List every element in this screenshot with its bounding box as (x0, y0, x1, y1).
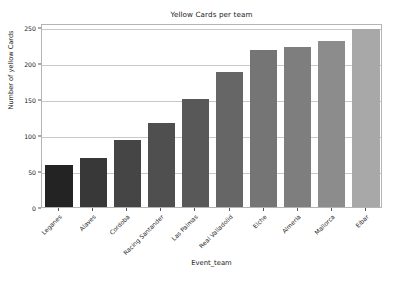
y-tick-mark (38, 171, 41, 172)
x-tick-mark (92, 208, 93, 211)
bar (148, 123, 175, 207)
bar (182, 99, 209, 207)
y-axis-label: Number of yellow Cards (7, 0, 15, 145)
y-tick-label: 200 (24, 60, 36, 67)
x-tick-mark (194, 208, 195, 211)
bar (80, 158, 107, 207)
y-tick-mark (38, 63, 41, 64)
y-tick-label: 0 (32, 205, 36, 212)
y-tick-label: 50 (28, 168, 36, 175)
bar (284, 47, 311, 207)
x-tick-mark (58, 208, 59, 211)
y-tick-label: 100 (24, 132, 36, 139)
x-tick-mark (160, 208, 161, 211)
y-tick-mark (38, 99, 41, 100)
bar (114, 140, 141, 207)
chart-figure: Yellow Cards per team 050100150200250 Nu… (0, 0, 396, 284)
x-tick-mark (229, 208, 230, 211)
bar-series (42, 25, 381, 207)
y-tick-mark (38, 27, 41, 28)
plot-area (41, 24, 382, 208)
y-tick-label: 250 (24, 24, 36, 31)
x-tick-mark (365, 208, 366, 211)
y-tick-mark (38, 135, 41, 136)
x-tick-mark (126, 208, 127, 211)
chart-title: Yellow Cards per team (41, 10, 382, 19)
x-tick-mark (263, 208, 264, 211)
y-tick-label: 150 (24, 96, 36, 103)
x-axis: LeganesAlavesCordobaRacing SantanderLas … (41, 208, 382, 256)
bar (318, 41, 345, 207)
x-tick-mark (297, 208, 298, 211)
bar (352, 29, 379, 207)
bar (250, 50, 277, 207)
bar (45, 165, 72, 207)
bar (216, 72, 243, 207)
x-axis-label: Event_team (41, 259, 382, 267)
x-tick-mark (331, 208, 332, 211)
